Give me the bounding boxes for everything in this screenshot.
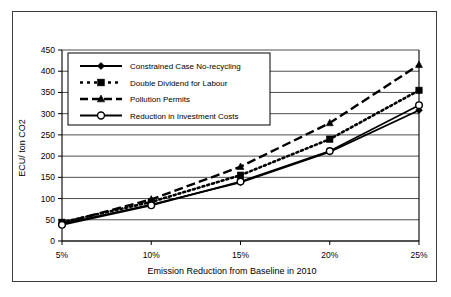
data-point-marker-triangle <box>416 61 423 68</box>
x-tick-label: 10% <box>143 250 160 260</box>
y-tick-label: 50 <box>46 215 56 225</box>
legend-item-label: Double Dividend for Labour <box>130 79 228 88</box>
data-point-marker-square <box>327 136 333 142</box>
line-chart: 050100150200250300350400450 5%10%15%20%2… <box>0 0 451 297</box>
y-axis-title: ECU/ ton CO2 <box>17 119 27 177</box>
data-point-marker-circle <box>98 112 105 119</box>
x-tick-label: 15% <box>232 250 249 260</box>
chart-legend: Constrained Case No-recyclingDouble Divi… <box>68 53 270 125</box>
legend-item-label: Reduction in Investment Costs <box>130 112 239 121</box>
y-tick-label: 350 <box>41 87 55 97</box>
data-point-marker-square <box>98 79 105 86</box>
x-tick-label: 5% <box>56 250 69 260</box>
y-axis: 050100150200250300350400450 <box>41 45 62 246</box>
chart-figure: 050100150200250300350400450 5%10%15%20%2… <box>0 0 451 297</box>
y-tick-label: 250 <box>41 130 55 140</box>
data-point-marker-circle <box>148 202 155 209</box>
y-tick-label: 150 <box>41 172 55 182</box>
x-tick-label: 25% <box>410 250 427 260</box>
y-tick-label: 300 <box>41 109 55 119</box>
data-point-marker-circle <box>237 178 244 185</box>
x-tick-label: 20% <box>321 250 338 260</box>
x-axis-title: Emission Reduction from Baseline in 2010 <box>147 266 316 276</box>
data-point-marker-circle <box>59 222 66 229</box>
y-tick-label: 100 <box>41 194 55 204</box>
legend-item-label: Constrained Case No-recycling <box>130 62 241 71</box>
y-tick-label: 200 <box>41 151 55 161</box>
y-tick-label: 0 <box>50 236 55 246</box>
x-axis: 5%10%15%20%25% <box>56 241 428 260</box>
y-tick-label: 400 <box>41 66 55 76</box>
data-point-marker-circle <box>326 148 333 155</box>
legend-item-2[interactable]: Double Dividend for Labour <box>80 79 228 88</box>
legend-item-label: Pollution Permits <box>130 95 190 104</box>
data-point-marker-square <box>416 87 422 93</box>
data-point-marker-circle <box>416 102 423 109</box>
data-point-marker-square <box>237 172 243 178</box>
y-tick-label: 450 <box>41 45 55 55</box>
